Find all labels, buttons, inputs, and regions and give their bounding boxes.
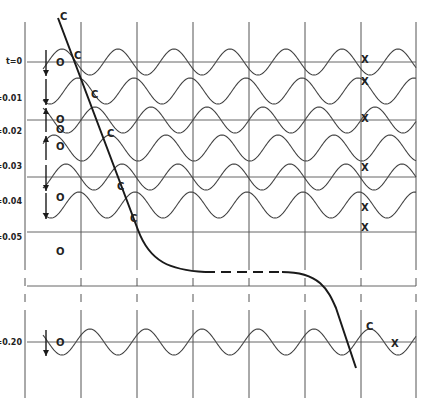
- fixed-point-marker-x: X: [361, 76, 369, 87]
- crest-marker-c: C: [107, 128, 114, 139]
- time-label: t=0.05: [0, 233, 22, 242]
- time-labels: t=0t=0.01t=0.02t=0.03t=0.04t=0.05t=0.20: [0, 57, 22, 347]
- markers: COXCOXCOXCOXCOXCOXCOX: [43, 11, 399, 356]
- travelling-wave-diagram: COXCOXCOXCOXCOXCOXCOX t=0t=0.01t=0.02t=0…: [0, 0, 434, 416]
- fixed-point-marker-x: X: [361, 222, 369, 233]
- crest-marker-c: C: [60, 11, 67, 22]
- crest-marker-c: C: [130, 213, 137, 224]
- arrow-head-icon: [43, 136, 49, 142]
- origin-marker-o: O: [56, 141, 65, 152]
- time-label: t=0: [6, 57, 23, 66]
- wave-row-3: [43, 135, 416, 161]
- crest-marker-c: C: [74, 50, 81, 61]
- fixed-point-marker-x: X: [391, 338, 399, 349]
- origin-marker-o: O: [56, 124, 65, 135]
- origin-marker-o: O: [56, 192, 65, 203]
- fixed-point-marker-x: X: [361, 162, 369, 173]
- fixed-point-marker-x: X: [361, 54, 369, 65]
- time-label: t=0.01: [0, 94, 22, 103]
- time-label: t=0.04: [0, 197, 22, 206]
- crest-marker-c: C: [117, 181, 124, 192]
- crest-marker-c: C: [91, 89, 98, 100]
- arrow-head-icon: [43, 213, 49, 219]
- arrow-head-icon: [43, 185, 49, 191]
- fixed-point-marker-x: X: [361, 113, 369, 124]
- crest-locus: [58, 18, 356, 368]
- time-label: t=0.02: [0, 127, 22, 136]
- fixed-point-marker-x: X: [361, 202, 369, 213]
- origin-marker-o: O: [56, 337, 65, 348]
- arrow-head-icon: [43, 70, 49, 76]
- origin-marker-o: O: [56, 246, 65, 257]
- origin-marker-o: O: [56, 57, 65, 68]
- arrow-head-icon: [43, 350, 49, 356]
- crest-marker-c: C: [366, 321, 373, 332]
- time-label: t=0.20: [0, 338, 22, 347]
- time-label: t=0.03: [0, 162, 22, 171]
